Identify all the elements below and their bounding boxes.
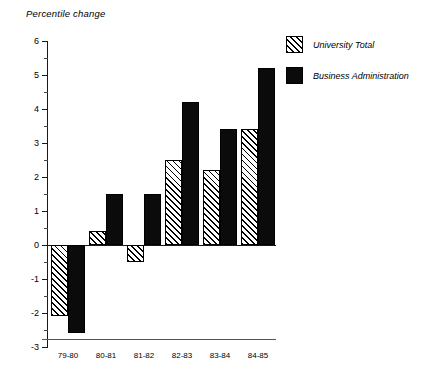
- chart-bottom-rule: [42, 339, 276, 340]
- x-tick-label-80-81: 80-81: [96, 352, 116, 360]
- y-tick-minor: [44, 160, 48, 161]
- x-tick-label-84-85: 84-85: [248, 352, 268, 360]
- y-tick-label: -3: [13, 343, 39, 352]
- y-tick-label: 2: [13, 173, 39, 182]
- bar-82-83-business-administration: [182, 102, 199, 245]
- legend-item-university-total: University Total: [286, 36, 431, 53]
- y-tick-major: [42, 279, 48, 280]
- bar-83-84-university-total: [203, 170, 220, 245]
- percentile-change-bar-chart: Percentile change 6543210-1-2-3 79-8080-…: [0, 0, 433, 372]
- bar-84-85-business-administration: [258, 68, 275, 245]
- bar-79-80-university-total: [51, 245, 68, 316]
- y-tick-major: [42, 347, 48, 348]
- y-tick-minor: [44, 228, 48, 229]
- bar-81-82-university-total: [127, 245, 144, 262]
- legend-item-business-administration: Business Administration: [286, 67, 431, 84]
- y-tick-label: -2: [13, 309, 39, 318]
- y-tick-label: 4: [13, 105, 39, 114]
- x-tick-label-81-82: 81-82: [134, 352, 154, 360]
- y-tick-major: [42, 75, 48, 76]
- y-tick-major: [42, 143, 48, 144]
- chart-legend: University TotalBusiness Administration: [286, 36, 431, 98]
- legend-swatch-icon: [286, 36, 303, 53]
- y-tick-major: [42, 41, 48, 42]
- legend-label: University Total: [313, 40, 374, 50]
- y-tick-minor: [44, 262, 48, 263]
- bar-83-84-business-administration: [220, 129, 237, 245]
- y-tick-minor: [44, 92, 48, 93]
- y-tick-minor: [44, 330, 48, 331]
- x-tick-label-83-84: 83-84: [210, 352, 230, 360]
- bar-81-82-business-administration: [144, 194, 161, 245]
- y-tick-label: 0: [13, 241, 39, 250]
- bar-84-85-university-total: [241, 129, 258, 245]
- y-tick-label: 1: [13, 207, 39, 216]
- y-tick-minor: [44, 58, 48, 59]
- y-tick-minor: [44, 296, 48, 297]
- x-tick-label-79-80: 79-80: [58, 352, 78, 360]
- bar-79-80-business-administration: [68, 245, 85, 333]
- y-tick-label: 5: [13, 71, 39, 80]
- legend-swatch-icon: [286, 67, 303, 84]
- y-tick-minor: [44, 194, 48, 195]
- y-tick-major: [42, 177, 48, 178]
- y-tick-major: [42, 245, 48, 246]
- bar-80-81-university-total: [89, 231, 106, 245]
- bar-80-81-business-administration: [106, 194, 123, 245]
- y-tick-label: 3: [13, 139, 39, 148]
- legend-label: Business Administration: [313, 71, 409, 81]
- y-tick-minor: [44, 126, 48, 127]
- y-tick-label: 6: [13, 37, 39, 46]
- y-axis-tick-labels: 6543210-1-2-3: [5, 0, 39, 372]
- y-tick-major: [42, 109, 48, 110]
- y-tick-major: [42, 313, 48, 314]
- x-tick-label-82-83: 82-83: [172, 352, 192, 360]
- y-tick-label: -1: [13, 275, 39, 284]
- bar-82-83-university-total: [165, 160, 182, 245]
- y-tick-major: [42, 211, 48, 212]
